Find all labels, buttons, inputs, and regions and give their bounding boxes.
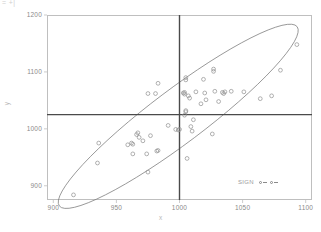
data-point: [72, 193, 76, 197]
data-point: [126, 143, 130, 147]
legend-dash-icon: [263, 182, 267, 183]
y-tick-label: 900: [16, 182, 42, 189]
data-point: [191, 118, 195, 122]
x-tick-label: 900: [38, 204, 68, 211]
data-point: [194, 90, 198, 94]
confidence-ellipse-layer: [43, 5, 313, 227]
data-point: [97, 141, 101, 145]
legend-entry: [259, 181, 267, 184]
legend-dash-icon: [274, 182, 278, 183]
data-point: [137, 135, 141, 139]
data-point: [199, 102, 203, 106]
data-point: [213, 89, 217, 93]
x-tick-label: 1050: [228, 204, 258, 211]
x-tick-label: 1100: [291, 204, 321, 211]
data-point: [229, 89, 233, 93]
data-point: [184, 78, 188, 82]
y-axis-label: y: [3, 94, 10, 114]
plot-canvas: [0, 0, 321, 232]
x-axis-label: x: [0, 214, 321, 221]
y-tick-label: 1200: [16, 11, 42, 18]
data-point: [279, 68, 283, 72]
data-points-layer: [72, 43, 299, 197]
legend-entry: [270, 181, 278, 184]
data-point: [156, 81, 160, 85]
data-point: [210, 132, 214, 136]
data-point: [217, 100, 221, 104]
data-point: [145, 152, 149, 156]
data-point: [242, 90, 246, 94]
legend-circle-icon: [270, 181, 273, 184]
data-point: [131, 152, 135, 156]
confidence-ellipse: [43, 5, 313, 227]
data-point: [212, 67, 216, 71]
data-point: [166, 124, 170, 128]
data-point: [202, 77, 206, 81]
data-point: [204, 98, 208, 102]
data-point: [295, 43, 299, 47]
y-tick-label: 1100: [16, 68, 42, 75]
legend-title: SIGN: [238, 179, 254, 185]
data-point: [146, 92, 150, 96]
data-point: [156, 149, 160, 153]
data-point: [203, 91, 207, 95]
data-point: [146, 170, 150, 174]
data-point: [258, 97, 262, 101]
data-point: [149, 134, 153, 138]
scatter-plot-figure: = +| 120011001000900 900950100010501100 …: [0, 0, 321, 232]
legend-circle-icon: [259, 181, 262, 184]
y-tick-label: 1000: [16, 125, 42, 132]
data-point: [190, 129, 194, 133]
data-point: [141, 139, 145, 143]
data-point: [270, 94, 274, 98]
legend: SIGN: [238, 179, 278, 185]
data-point: [185, 157, 189, 161]
x-tick-label: 950: [101, 204, 131, 211]
x-tick-label: 1000: [165, 204, 195, 211]
data-point: [189, 125, 193, 129]
data-point: [96, 161, 100, 165]
reference-lines-layer: [47, 15, 312, 200]
tick-marks-layer: [44, 15, 306, 203]
data-point: [154, 92, 158, 96]
